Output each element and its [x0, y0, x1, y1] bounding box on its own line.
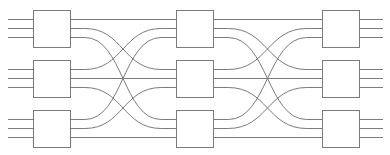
switch-s1-2[interactable]	[177, 111, 214, 148]
switch-s2-0[interactable]	[323, 11, 360, 48]
clos-network-diagram	[0, 0, 390, 155]
switch-s0-0[interactable]	[34, 11, 71, 48]
switch-s2-2[interactable]	[323, 111, 360, 148]
switch-s0-2[interactable]	[34, 111, 71, 148]
switch-s2-1[interactable]	[323, 61, 360, 98]
link-s12p1-s21p2	[213, 88, 322, 129]
link-s11p0-s20p1	[213, 29, 322, 70]
link-s01p0-s10p1	[70, 29, 176, 70]
switch-s1-1[interactable]	[177, 61, 214, 98]
link-s02p1-s11p2	[70, 88, 176, 129]
network-svg	[0, 0, 390, 155]
switch-s1-0[interactable]	[177, 11, 214, 48]
switch-s0-1[interactable]	[34, 61, 71, 98]
